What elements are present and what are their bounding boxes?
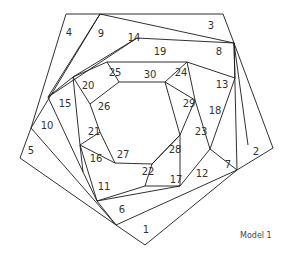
piece-label-21: 21 — [88, 126, 101, 137]
piece-label-11: 11 — [98, 181, 111, 192]
piece-label-6: 6 — [119, 204, 125, 215]
piece-label-18: 18 — [209, 105, 222, 116]
piece-label-29: 29 — [183, 98, 196, 109]
piece-label-10: 10 — [41, 120, 54, 131]
piece-label-30: 30 — [144, 69, 157, 80]
fold-line — [210, 149, 237, 170]
piece-label-28: 28 — [169, 144, 182, 155]
piece-label-2: 2 — [253, 146, 259, 157]
piece-label-7: 7 — [225, 159, 231, 170]
piece-label-3: 3 — [208, 20, 214, 31]
fold-line — [31, 128, 116, 225]
fold-line — [97, 201, 116, 225]
fold-line — [187, 62, 235, 78]
piece-label-1: 1 — [143, 224, 149, 235]
fold-line — [116, 225, 145, 245]
fold-line — [31, 14, 66, 128]
piece-label-27: 27 — [117, 149, 130, 160]
piece-label-17: 17 — [170, 174, 183, 185]
piece-label-8: 8 — [216, 46, 222, 57]
pentagon-spiral-diagram: 1234567891011121314151617181920212223242… — [0, 0, 287, 255]
model-caption: Model 1 — [240, 231, 272, 240]
fold-line — [137, 38, 234, 43]
fold-line — [223, 14, 234, 43]
piece-label-16: 16 — [90, 153, 103, 164]
fold-line — [234, 43, 273, 148]
piece-label-24: 24 — [175, 67, 188, 78]
fold-line — [73, 62, 107, 77]
piece-label-25: 25 — [109, 67, 122, 78]
piece-label-26: 26 — [98, 101, 111, 112]
piece-label-19: 19 — [154, 46, 167, 57]
fold-line — [115, 163, 152, 164]
piece-label-20: 20 — [82, 80, 95, 91]
piece-label-14: 14 — [128, 32, 141, 43]
piece-label-9: 9 — [98, 28, 104, 39]
fold-line — [83, 172, 97, 201]
piece-label-22: 22 — [142, 166, 155, 177]
piece-label-12: 12 — [196, 168, 209, 179]
piece-label-4: 4 — [66, 27, 72, 38]
piece-label-13: 13 — [216, 79, 229, 90]
piece-label-15: 15 — [59, 98, 72, 109]
fold-line — [145, 170, 237, 245]
fold-line — [187, 62, 195, 100]
piece-label-23: 23 — [195, 126, 208, 137]
fold-line — [73, 38, 137, 77]
piece-label-5: 5 — [28, 145, 34, 156]
